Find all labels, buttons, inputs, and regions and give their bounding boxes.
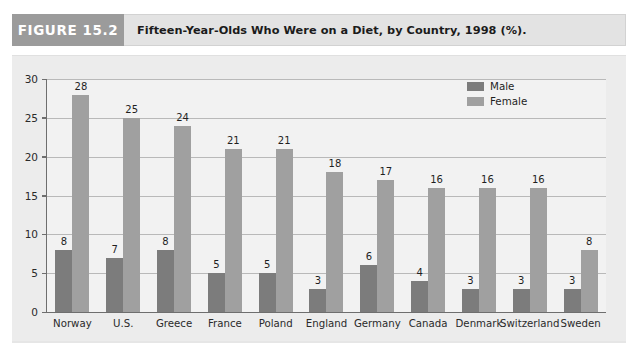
bar-value-label: 21 <box>227 135 240 146</box>
bar-france-female[interactable]: 21 <box>225 149 242 312</box>
bar-value-label: 3 <box>315 275 321 286</box>
bar-group: 725U.S. <box>98 79 149 312</box>
bar-group: 824Greece <box>149 79 200 312</box>
bar-value-label: 7 <box>112 244 118 255</box>
bar-value-label: 28 <box>75 81 88 92</box>
x-axis-category-label: Canada <box>409 318 448 329</box>
chart-legend: Male Female <box>467 80 527 110</box>
bar-france-male[interactable]: 5 <box>208 273 225 312</box>
bar-value-label: 3 <box>569 275 575 286</box>
y-axis-tick-label: 30 <box>25 73 38 85</box>
bar-norway-female[interactable]: 28 <box>72 95 89 312</box>
bar-denmark-female[interactable]: 16 <box>479 188 496 312</box>
bar-poland-male[interactable]: 5 <box>259 273 276 312</box>
bar-group: 318England <box>301 79 352 312</box>
y-axis-tick-label: 0 <box>31 306 38 318</box>
legend-item-female: Female <box>467 95 527 107</box>
legend-label-male: Male <box>490 80 514 92</box>
bar-us-male[interactable]: 7 <box>106 258 123 312</box>
bar-switzerland-male[interactable]: 3 <box>513 289 530 312</box>
bar-value-label: 25 <box>125 104 138 115</box>
bar-group: 316Switzerland <box>504 79 555 312</box>
bar-value-label: 16 <box>481 174 494 185</box>
x-axis-category-label: Switzerland <box>500 318 559 329</box>
x-axis-category-label: U.S. <box>113 318 133 329</box>
bar-germany-female[interactable]: 17 <box>377 180 394 312</box>
figure-title: Fifteen-Year-Olds Who Were on a Diet, by… <box>124 14 626 46</box>
bar-greece-male[interactable]: 8 <box>157 250 174 312</box>
bar-value-label: 3 <box>467 275 473 286</box>
figure-number-badge: FIGURE 15.2 <box>12 14 124 46</box>
bar-sweden-female[interactable]: 8 <box>581 250 598 312</box>
bar-group: 316Denmark <box>454 79 505 312</box>
bar-value-label: 8 <box>586 236 592 247</box>
bar-value-label: 4 <box>416 267 422 278</box>
y-axis-tick-label: 5 <box>31 267 38 279</box>
x-axis-category-label: France <box>208 318 242 329</box>
bar-poland-female[interactable]: 21 <box>276 149 293 312</box>
x-axis-category-label: Germany <box>354 318 401 329</box>
bar-england-male[interactable]: 3 <box>309 289 326 312</box>
x-axis-category-label: Sweden <box>560 318 600 329</box>
bar-denmark-male[interactable]: 3 <box>462 289 479 312</box>
x-axis-category-label: Norway <box>53 318 92 329</box>
bar-canada-female[interactable]: 16 <box>428 188 445 312</box>
bar-germany-male[interactable]: 6 <box>360 265 377 312</box>
bar-value-label: 8 <box>162 236 168 247</box>
bar-us-female[interactable]: 25 <box>123 118 140 312</box>
x-axis-category-label: England <box>306 318 347 329</box>
legend-swatch-male-icon <box>467 82 484 91</box>
bar-norway-male[interactable]: 8 <box>55 250 72 312</box>
bar-group: 521France <box>199 79 250 312</box>
legend-item-male: Male <box>467 80 527 92</box>
figure-header: FIGURE 15.2 Fifteen-Year-Olds Who Were o… <box>12 14 626 46</box>
bar-value-label: 17 <box>379 166 392 177</box>
bar-value-label: 3 <box>518 275 524 286</box>
bar-sweden-male[interactable]: 3 <box>564 289 581 312</box>
bar-group: 521Poland <box>250 79 301 312</box>
plot-area: 302520151050828Norway725U.S.824Greece521… <box>46 79 606 313</box>
bar-value-label: 5 <box>264 259 270 270</box>
y-axis-tick-label: 10 <box>25 228 38 240</box>
bar-value-label: 16 <box>430 174 443 185</box>
x-axis-category-label: Denmark <box>456 318 503 329</box>
figure-container: FIGURE 15.2 Fifteen-Year-Olds Who Were o… <box>0 0 640 352</box>
bar-group: 38Sweden <box>555 79 606 312</box>
bar-group: 416Canada <box>403 79 454 312</box>
bar-switzerland-female[interactable]: 16 <box>530 188 547 312</box>
y-axis-tick-label: 20 <box>25 151 38 163</box>
bar-group: 617Germany <box>352 79 403 312</box>
bar-value-label: 24 <box>176 112 189 123</box>
bar-group: 828Norway <box>47 79 98 312</box>
bar-value-label: 5 <box>213 259 219 270</box>
figure-bottom-rule <box>12 341 626 343</box>
bar-england-female[interactable]: 18 <box>326 172 343 312</box>
legend-label-female: Female <box>490 95 527 107</box>
bar-value-label: 6 <box>366 251 372 262</box>
legend-swatch-female-icon <box>467 97 484 106</box>
y-axis-tick-label: 15 <box>25 190 38 202</box>
y-axis-tick-label: 25 <box>25 112 38 124</box>
x-axis-category-label: Poland <box>259 318 293 329</box>
bar-value-label: 18 <box>329 158 342 169</box>
x-axis-category-label: Greece <box>156 318 192 329</box>
bar-greece-female[interactable]: 24 <box>174 126 191 312</box>
chart-panel: 302520151050828Norway725U.S.824Greece521… <box>12 55 626 341</box>
bar-value-label: 8 <box>61 236 67 247</box>
bar-canada-male[interactable]: 4 <box>411 281 428 312</box>
bar-value-label: 21 <box>278 135 291 146</box>
bar-value-label: 16 <box>532 174 545 185</box>
